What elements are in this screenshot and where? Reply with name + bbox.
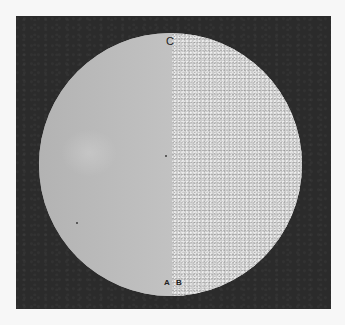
surface-speck — [165, 155, 167, 157]
smooth-half-region — [39, 33, 172, 296]
specimen-disc — [39, 33, 302, 296]
textured-half-region — [172, 33, 302, 296]
label-a: A — [164, 279, 170, 287]
label-c: C — [166, 36, 174, 47]
label-b: B — [176, 279, 182, 287]
surface-speck — [76, 222, 78, 224]
